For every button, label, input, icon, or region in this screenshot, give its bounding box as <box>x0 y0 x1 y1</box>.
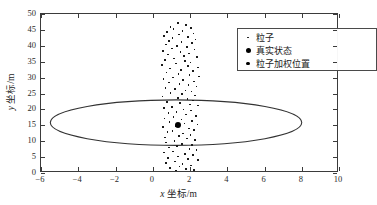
particle-point <box>173 116 175 118</box>
y-axis-label: y 坐标/m <box>3 74 17 111</box>
particle-point <box>185 90 187 92</box>
y-tick-label: 10 <box>28 135 37 145</box>
particle-point <box>190 62 192 64</box>
x-tick-label: 6 <box>261 174 265 184</box>
particle-point <box>165 162 167 164</box>
particle-point <box>175 63 177 65</box>
particle-point <box>174 140 176 142</box>
particle-point <box>177 22 179 24</box>
particle-point <box>180 51 182 53</box>
particle-point <box>163 107 165 109</box>
legend-item-weighted-position: 粒子加权位置 <box>242 57 372 70</box>
particle-point <box>196 86 198 88</box>
small-dot-icon <box>242 37 254 39</box>
particle-point <box>187 65 189 67</box>
y-tick-label: 0 <box>32 167 36 177</box>
y-tick-right <box>333 157 337 158</box>
y-tick <box>41 14 45 15</box>
x-tick-label: 10 <box>334 174 343 184</box>
particle-point <box>163 35 165 37</box>
particle-point <box>170 92 172 94</box>
x-tick <box>227 167 228 171</box>
particle-point <box>185 168 187 170</box>
x-tick-top <box>153 14 154 18</box>
particle-point <box>195 39 197 41</box>
y-tick <box>41 125 45 126</box>
particle-point <box>165 87 167 89</box>
particle-point <box>186 46 188 48</box>
y-tick-right <box>333 78 337 79</box>
particle-point <box>164 59 166 61</box>
legend-label: 粒子加权位置 <box>256 57 310 70</box>
particle-point <box>197 105 199 107</box>
x-tick <box>339 167 340 171</box>
particle-point <box>172 151 174 153</box>
particle-point <box>188 84 190 86</box>
particle-point <box>164 137 166 139</box>
particle-point <box>179 83 181 85</box>
particle-point <box>198 76 200 78</box>
y-tick-label: 5 <box>32 151 36 161</box>
x-axis-label: x 坐标/m <box>0 186 357 200</box>
y-tick-label: 50 <box>28 8 37 18</box>
particle-point <box>181 93 183 95</box>
particle-point <box>183 109 185 111</box>
particle-point <box>189 74 191 76</box>
x-tick-top <box>302 14 303 18</box>
particle-point <box>176 111 178 113</box>
y-tick-right <box>333 94 337 95</box>
particle-point <box>167 157 169 159</box>
particle-point <box>181 41 183 43</box>
particle-point <box>192 100 194 102</box>
y-tick-right <box>333 141 337 142</box>
x-tick <box>190 167 191 171</box>
particle-point <box>174 88 176 90</box>
particle-point <box>197 124 199 126</box>
particle-point <box>185 114 187 116</box>
y-tick-label: 40 <box>28 40 37 50</box>
y-tick <box>41 141 45 142</box>
particle-point <box>186 138 188 140</box>
particle-point <box>188 128 190 130</box>
x-tick-label: −2 <box>110 174 119 184</box>
particle-point <box>188 53 190 55</box>
particle-point <box>162 96 164 98</box>
y-tick <box>41 157 45 158</box>
medium-dot-icon <box>242 62 254 66</box>
particle-point <box>162 50 164 52</box>
y-tick-right <box>333 30 337 31</box>
x-tick-label: −6 <box>35 174 44 184</box>
plot-area: 粒子 真实状态 粒子加权位置 <box>40 13 338 172</box>
particle-point <box>195 115 197 117</box>
particle-point <box>176 145 178 147</box>
particle-point <box>168 147 170 149</box>
particle-point <box>165 44 167 46</box>
x-tick-top <box>265 14 266 18</box>
particle-point <box>172 130 174 132</box>
particle-point <box>189 104 191 106</box>
particle-point <box>184 60 186 62</box>
x-tick <box>41 167 42 171</box>
particle-point <box>170 26 172 28</box>
particle-point <box>191 91 193 93</box>
particle-point <box>181 143 183 145</box>
x-tick-top <box>190 14 191 18</box>
y-tick-right <box>333 109 337 110</box>
particle-point <box>167 54 169 56</box>
particle-point <box>193 129 195 131</box>
particle-point <box>197 159 199 161</box>
chart-legend[interactable]: 粒子 真实状态 粒子加权位置 <box>237 28 377 71</box>
legend-label: 真实状态 <box>256 44 292 57</box>
particle-point <box>196 149 198 151</box>
particle-point <box>193 81 195 83</box>
particle-point <box>176 45 178 47</box>
particle-point <box>183 55 185 57</box>
y-tick <box>41 78 45 79</box>
particle-point <box>165 142 167 144</box>
particle-point <box>197 67 199 69</box>
particle-point <box>173 28 175 30</box>
x-tick-label: 4 <box>224 174 228 184</box>
particle-point <box>190 165 192 167</box>
y-tick <box>41 109 45 110</box>
